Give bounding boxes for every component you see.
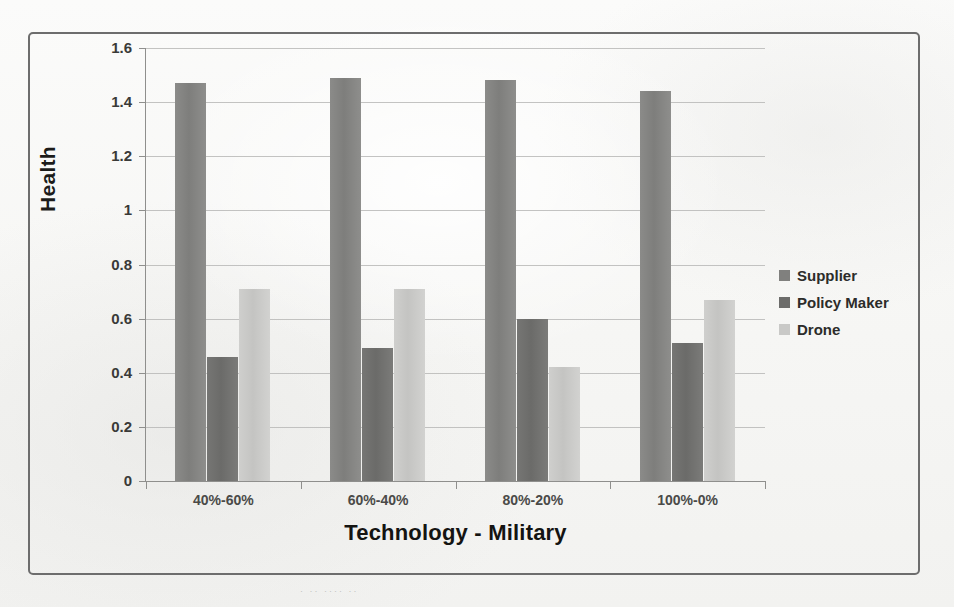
y-axis-tick [139,210,146,211]
y-axis-tick-label: 0.6 [86,310,132,327]
y-axis-tick-label: 0.8 [86,256,132,273]
y-axis-labels: 00.20.40.60.811.21.41.6 [82,0,132,607]
y-axis-tick [139,481,146,482]
bar-drone-2 [549,367,580,481]
y-axis-tick [139,427,146,428]
y-axis-tick-label: 0.4 [86,364,132,381]
bar-drone-0 [239,289,270,481]
x-axis-tick [610,481,611,489]
x-axis-tick-label: 100%-0% [610,492,765,508]
y-axis-tick [139,373,146,374]
y-axis-tick [139,48,146,49]
legend-swatch-icon [779,270,790,281]
bar-policy-maker-1 [362,348,393,481]
gridline [146,156,765,157]
gridline [146,265,765,266]
x-axis-tick-label: 60%-40% [301,492,456,508]
y-axis-tick [139,156,146,157]
x-axis-tick-label: 40%-60% [146,492,301,508]
legend-label: Drone [797,321,840,338]
bar-supplier-2 [485,80,516,481]
x-axis-tick [301,481,302,489]
bar-supplier-0 [175,83,206,481]
x-axis-tick [146,481,147,489]
y-axis-tick-label: 1.2 [86,147,132,164]
chart-legend: SupplierPolicy MakerDrone [779,262,889,343]
x-axis-tick [456,481,457,489]
gridline [146,102,765,103]
legend-item-supplier[interactable]: Supplier [779,262,889,289]
y-axis-tick-label: 1.6 [86,39,132,56]
y-axis-tick [139,102,146,103]
bar-supplier-1 [330,78,361,481]
bar-drone-1 [394,289,425,481]
legend-item-policy-maker[interactable]: Policy Maker [779,289,889,316]
legend-label: Supplier [797,267,857,284]
gridline [146,210,765,211]
x-axis-title: Technology - Military [146,520,765,546]
chart-screenshot: Health 00.20.40.60.811.21.41.6 40%-60%60… [0,0,954,607]
x-axis-tick [765,481,766,489]
legend-swatch-icon [779,324,790,335]
y-axis-tick [139,265,146,266]
y-axis-tick-label: 1.4 [86,93,132,110]
bar-drone-3 [704,300,735,481]
bar-policy-maker-2 [517,319,548,481]
y-axis-tick [139,319,146,320]
x-axis-tick-label: 80%-20% [456,492,611,508]
gridline [146,48,765,49]
y-axis-title: Health [36,146,60,212]
bar-policy-maker-0 [207,357,238,481]
y-axis-tick-label: 1 [86,201,132,218]
bar-supplier-3 [640,91,671,481]
legend-item-drone[interactable]: Drone [779,316,889,343]
scan-artifact: · ·· ···· ·· [300,586,358,596]
legend-label: Policy Maker [797,294,889,311]
y-axis-tick-label: 0.2 [86,418,132,435]
legend-swatch-icon [779,297,790,308]
plot-area [146,48,765,481]
y-axis-tick-label: 0 [86,472,132,489]
bar-policy-maker-3 [672,343,703,481]
